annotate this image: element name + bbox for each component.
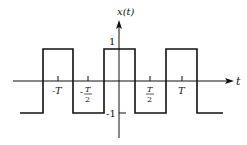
y-tick-label-neg1: -1 (106, 108, 116, 119)
x-tick-label-T-half-den: 2 (147, 95, 152, 104)
x-tick-label-neg-T-half-den: 2 (85, 95, 90, 104)
t-axis-label: t (236, 75, 241, 88)
x-axis-label: x(t) (117, 6, 135, 17)
square-wave-diagram: t x(t) 1 -1 -T - T 2 T 2 T (0, 0, 247, 145)
x-tick-label-T-half-num: T (147, 85, 153, 94)
x-tick-label-neg-T-half-num: T (85, 85, 91, 94)
y-tick-label-1: 1 (109, 36, 115, 47)
x-tick-label-neg-T-half-sign: - (80, 87, 83, 97)
x-tick-label-T: T (178, 85, 186, 96)
x-tick-label-neg-T: -T (52, 85, 63, 96)
